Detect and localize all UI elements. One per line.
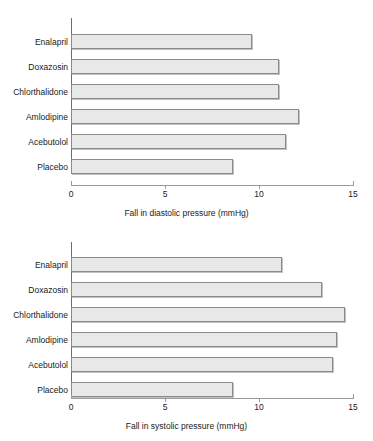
x-axis-title: Fall in diastolic pressure (mmHg): [0, 208, 373, 218]
bar-doxazosin: [71, 59, 279, 74]
x-tick-label: 5: [153, 189, 177, 199]
category-label: Enalapril: [0, 260, 68, 270]
category-label: Placebo: [0, 385, 68, 395]
bar-placebo: [71, 382, 233, 397]
category-label: Doxazosin: [0, 62, 68, 72]
bar-chlorthalidone: [71, 84, 279, 99]
x-tick-label: 0: [59, 189, 83, 199]
bar-amlodipine: [71, 332, 337, 347]
x-axis-title: Fall in systolic pressure (mmHg): [0, 421, 373, 431]
x-tick-label: 15: [341, 189, 365, 199]
x-tick-label: 15: [341, 402, 365, 412]
bar-acebutolol: [71, 357, 333, 372]
category-label: Enalapril: [0, 37, 68, 47]
bar-chlorthalidone: [71, 307, 345, 322]
category-label: Amlodipine: [0, 112, 68, 122]
category-label: Amlodipine: [0, 335, 68, 345]
x-tick-label: 10: [247, 402, 271, 412]
x-tick-label: 10: [247, 189, 271, 199]
x-tick-mark: [71, 394, 72, 398]
bar-enalapril: [71, 257, 282, 272]
x-tick-label: 0: [59, 402, 83, 412]
figure-two-bar-charts: Enalapril Doxazosin Chlorthalidone Amlod…: [0, 0, 373, 441]
x-tick-label: 5: [153, 402, 177, 412]
x-tick-mark: [71, 181, 72, 185]
chart-panel-systolic: Enalapril Doxazosin Chlorthalidone Amlod…: [0, 240, 373, 441]
x-tick-mark: [353, 394, 354, 398]
bar-doxazosin: [71, 282, 322, 297]
x-axis-line: [71, 398, 354, 399]
category-label: Acebutolol: [0, 137, 68, 147]
bar-enalapril: [71, 34, 252, 49]
category-label: Chlorthalidone: [0, 87, 68, 97]
category-label: Acebutolol: [0, 360, 68, 370]
x-tick-mark: [353, 181, 354, 185]
category-label: Placebo: [0, 162, 68, 172]
chart-panel-diastolic: Enalapril Doxazosin Chlorthalidone Amlod…: [0, 0, 373, 225]
bar-placebo: [71, 159, 233, 174]
bar-acebutolol: [71, 134, 286, 149]
x-axis-line: [71, 185, 354, 186]
category-label: Doxazosin: [0, 285, 68, 295]
bar-amlodipine: [71, 109, 299, 124]
category-label: Chlorthalidone: [0, 310, 68, 320]
